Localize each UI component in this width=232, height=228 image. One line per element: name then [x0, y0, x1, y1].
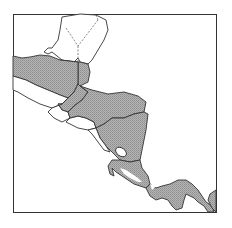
central-america-map [0, 0, 232, 228]
region-belize [78, 62, 90, 86]
map-container [0, 0, 232, 228]
